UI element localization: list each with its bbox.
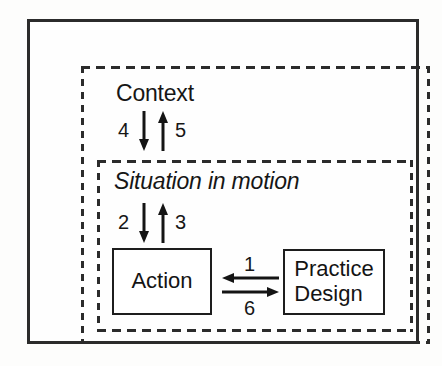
outer-frame: Context Situation in motion 4 5 2	[27, 19, 419, 344]
arrow-label-5: 5	[175, 120, 186, 140]
situation-border-top	[97, 160, 413, 163]
node-practice-design-label: Practice Design	[294, 257, 373, 306]
node-action[interactable]: Action	[112, 248, 212, 315]
situation-border-bottom	[97, 329, 413, 332]
context-border-bottom	[81, 341, 430, 344]
context-border-right	[427, 66, 430, 344]
label-context: Context	[116, 82, 194, 105]
arrow-pair-action-practice: 1 6	[221, 254, 281, 310]
arrow-label-6: 6	[244, 298, 255, 318]
node-action-label: Action	[131, 269, 192, 294]
arrow-label-3: 3	[175, 212, 186, 232]
diagram-canvas: Context Situation in motion 4 5 2	[0, 0, 442, 366]
situation-border-left	[97, 160, 100, 332]
context-border-left	[81, 66, 84, 344]
node-practice-design-line1: Practice	[294, 256, 373, 281]
arrow-pair-context-situation: 4 5	[118, 110, 194, 152]
situation-border-right	[410, 160, 413, 332]
node-practice-design[interactable]: Practice Design	[283, 249, 385, 315]
arrow-pair-situation-action: 2 3	[118, 202, 194, 244]
context-border-top	[81, 66, 430, 69]
label-situation-in-motion: Situation in motion	[114, 170, 299, 193]
node-practice-design-line2: Design	[294, 281, 362, 306]
